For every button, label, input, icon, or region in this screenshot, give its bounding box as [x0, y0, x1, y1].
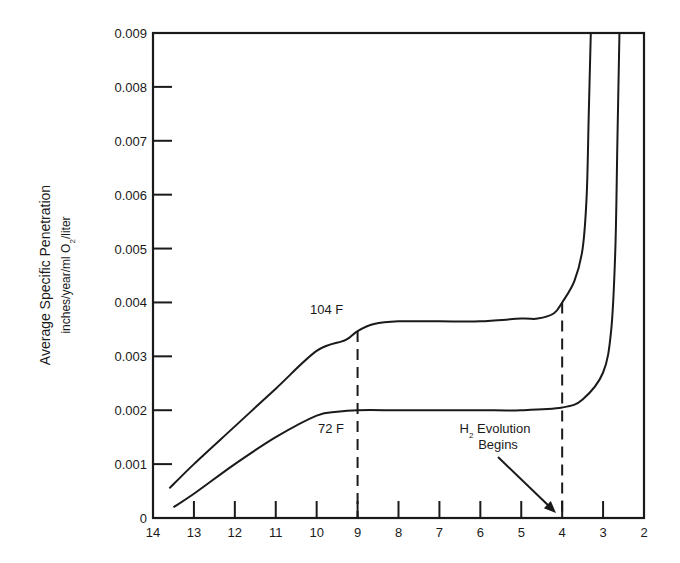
x-tick-label: 7	[436, 525, 443, 540]
series-lines	[169, 33, 619, 507]
x-tick-label: 12	[228, 525, 242, 540]
x-tick-label: 9	[354, 525, 361, 540]
plot-frame	[153, 33, 644, 518]
series-line-72f	[173, 33, 619, 507]
annotations: 104 F 72 F H2 Evolution Begins	[310, 302, 556, 513]
y-tick-label: 0	[140, 511, 147, 526]
label-h2-begins: Begins	[478, 437, 518, 452]
y-tick-label: 0.001	[114, 457, 147, 472]
x-tick-label: 2	[640, 525, 647, 540]
x-tick-label: 4	[559, 525, 566, 540]
chart: Average Specific Penetration inches/year…	[0, 0, 680, 563]
y-axis-units: inches/year/ml O2/liter	[59, 216, 77, 333]
y-tick-label: 0.002	[114, 403, 147, 418]
arrow-icon	[498, 457, 556, 513]
y-tick-label: 0.005	[114, 242, 147, 257]
x-tick-label: 13	[187, 525, 201, 540]
y-tick-label: 0.009	[114, 26, 147, 41]
y-axis-title: Average Specific Penetration	[37, 185, 53, 365]
x-tick-label: 8	[395, 525, 402, 540]
y-tick-label: 0.006	[114, 188, 147, 203]
y-tick-label: 0.003	[114, 349, 147, 364]
y-tick-label: 0.007	[114, 134, 147, 149]
y-axis-title-group: Average Specific Penetration inches/year…	[37, 185, 77, 365]
x-tick-label: 14	[146, 525, 160, 540]
x-tick-label: 10	[309, 525, 323, 540]
y-axis-ticks: 00.0010.0020.0030.0040.0050.0060.0070.00…	[114, 26, 172, 526]
x-tick-label: 6	[477, 525, 484, 540]
x-tick-label: 11	[269, 525, 283, 540]
plot-border	[153, 33, 644, 518]
label-72f: 72 F	[318, 421, 344, 436]
chart-svg: Average Specific Penetration inches/year…	[0, 0, 680, 563]
y-tick-label: 0.008	[114, 80, 147, 95]
x-tick-label: 3	[599, 525, 606, 540]
y-tick-label: 0.004	[114, 295, 147, 310]
x-tick-label: 5	[518, 525, 525, 540]
x-axis-ticks: 141312111098765432	[146, 501, 648, 540]
label-104f: 104 F	[310, 302, 343, 317]
